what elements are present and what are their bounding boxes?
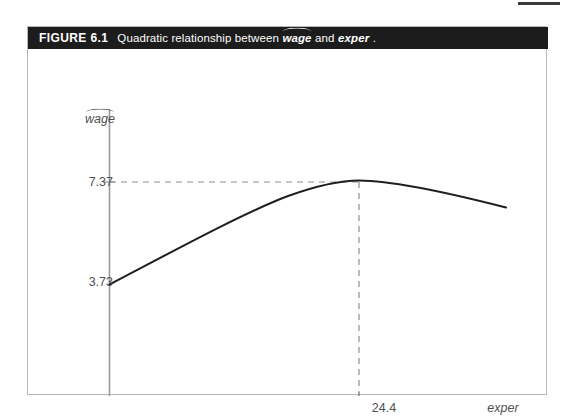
y-tick-label-737: 7.37 (56, 175, 113, 189)
y-axis-label-wage: wage (85, 112, 115, 126)
hat-accent-icon (86, 109, 114, 114)
figure-caption-text: FIGURE 6.1 Quadratic relationship betwee… (28, 31, 376, 45)
caption-variable-exper: exper (338, 32, 369, 44)
caption-variable-wage-text: wage (282, 32, 311, 44)
caption-connector: and (315, 32, 335, 44)
hat-accent-icon (283, 28, 310, 33)
plot-svg (28, 49, 548, 396)
caption-variable-wage: wage (282, 32, 311, 44)
figure-container: FIGURE 6.1 Quadratic relationship betwee… (27, 26, 547, 395)
x-tick-label-244: 24.4 (334, 401, 434, 415)
x-axis-label: exper (468, 401, 538, 415)
caption-period: . (373, 32, 376, 44)
y-axis-label: wage (74, 109, 126, 127)
figure-number-label: FIGURE 6.1 (39, 31, 108, 45)
figure-caption-banner: FIGURE 6.1 Quadratic relationship betwee… (28, 27, 548, 49)
quadratic-curve-wage-exper (110, 181, 507, 285)
page-crop-mark (518, 2, 560, 5)
y-axis-label-text: wage (85, 112, 115, 126)
y-tick-label-373: 3.73 (56, 275, 113, 289)
plot-area: wage 7.37 3.73 24.4 exper (28, 49, 548, 396)
caption-text-part1: Quadratic relationship between (117, 32, 279, 44)
